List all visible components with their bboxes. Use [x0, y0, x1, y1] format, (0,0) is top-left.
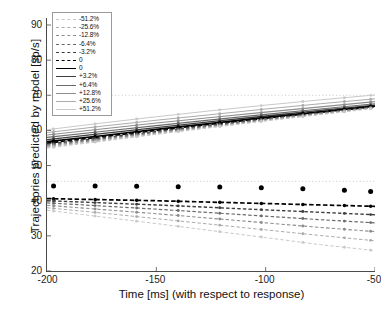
legend-item[interactable]: +12.8%: [55, 89, 109, 97]
legend-line-swatch: [55, 40, 77, 48]
data-point-marker: [343, 220, 346, 223]
data-point-marker: [369, 221, 372, 224]
data-point-marker: [135, 118, 138, 121]
data-point-marker: [52, 146, 55, 149]
data-point-marker: [369, 239, 372, 242]
y-tick-label: 60: [16, 125, 42, 135]
legend-item-label: 0: [77, 56, 83, 64]
data-point-marker: [218, 201, 222, 205]
data-point-marker-highlight: [368, 189, 373, 194]
data-point-marker: [135, 207, 138, 210]
data-point-marker: [177, 209, 180, 212]
legend-line-swatch: [55, 97, 77, 105]
legend-item-label: -6.4%: [77, 40, 95, 48]
data-point-marker: [260, 202, 264, 206]
data-point-marker: [260, 104, 263, 107]
data-point-marker: [177, 130, 180, 133]
data-point-marker: [369, 230, 372, 233]
legend-item[interactable]: -6.4%: [55, 40, 109, 48]
data-point-marker: [260, 221, 263, 224]
data-point-marker: [260, 208, 263, 211]
data-point-marker: [135, 211, 138, 214]
legend-item[interactable]: +25.6%: [55, 97, 109, 105]
legend-item-label: +12.8%: [77, 89, 101, 97]
data-point-marker-highlight: [342, 188, 347, 193]
data-point-marker: [301, 115, 304, 118]
data-point-marker: [369, 213, 372, 216]
data-point-marker: [343, 228, 346, 231]
data-point-marker-highlight: [134, 184, 139, 189]
data-point-marker-highlight: [300, 186, 305, 191]
legend-item[interactable]: -3.2%: [55, 48, 109, 56]
data-point-marker: [177, 219, 180, 222]
data-point-marker: [260, 108, 263, 111]
data-point-marker: [301, 203, 305, 207]
legend-line-swatch: [55, 64, 77, 72]
chart-legend: -51.2%-25.6%-12.8%-6.4%-3.2%00+3.2%+6.4%…: [52, 12, 112, 116]
legend-item-label: -51.2%: [77, 15, 99, 23]
data-point-marker: [343, 100, 346, 103]
legend-line-swatch: [55, 56, 77, 64]
legend-item-label: +6.4%: [77, 81, 97, 89]
data-point-marker: [52, 210, 55, 213]
legend-item[interactable]: +6.4%: [55, 81, 109, 89]
data-point-marker: [52, 207, 55, 210]
data-point-marker: [369, 107, 372, 110]
data-point-marker: [94, 141, 97, 144]
legend-item-label: +51.2%: [77, 105, 101, 113]
data-point-marker: [343, 246, 346, 249]
data-point-marker: [218, 218, 221, 221]
legend-item[interactable]: 0: [55, 64, 109, 72]
data-point-marker: [218, 230, 221, 233]
x-tick-label: -50: [367, 274, 381, 285]
legend-line-swatch: [55, 31, 77, 39]
legend-line-swatch: [55, 23, 77, 31]
data-point-marker: [301, 232, 304, 235]
legend-item[interactable]: +3.2%: [55, 72, 109, 80]
data-point-marker: [218, 108, 221, 111]
data-point-marker-highlight: [259, 185, 264, 190]
legend-item[interactable]: +51.2%: [55, 105, 109, 113]
data-point-marker: [343, 212, 346, 215]
data-point-marker: [94, 201, 97, 204]
data-point-marker: [260, 214, 263, 217]
data-point-marker: [135, 199, 139, 203]
legend-line-swatch: [55, 48, 77, 56]
legend-item-label: +3.2%: [77, 72, 97, 80]
data-point-marker: [343, 110, 346, 113]
data-point-marker: [260, 120, 263, 123]
data-point-marker: [343, 96, 346, 99]
data-point-marker: [52, 204, 55, 207]
x-axis-label: Time [ms] (with respect to response): [45, 288, 378, 300]
legend-line-swatch: [55, 81, 77, 89]
data-point-marker: [177, 204, 180, 207]
data-point-marker-highlight: [93, 183, 98, 188]
data-point-marker: [52, 130, 55, 133]
legend-item-label: -25.6%: [77, 23, 99, 31]
data-point-marker-highlight: [51, 183, 56, 188]
data-point-marker: [218, 112, 221, 115]
legend-item[interactable]: -51.2%: [55, 15, 109, 23]
data-point-marker: [135, 135, 138, 138]
legend-item[interactable]: -25.6%: [55, 23, 109, 31]
data-point-marker: [135, 203, 138, 206]
legend-item-label: +25.6%: [77, 97, 101, 105]
legend-line-swatch: [55, 89, 77, 97]
data-point-marker: [218, 206, 221, 209]
data-point-marker: [94, 126, 97, 129]
y-tick-label: 70: [16, 90, 42, 100]
legend-item[interactable]: 0: [55, 56, 109, 64]
data-point-marker: [94, 215, 97, 218]
data-point-marker: [177, 225, 180, 228]
data-point-marker: [369, 94, 372, 97]
data-point-marker: [176, 200, 180, 204]
data-point-marker: [369, 98, 372, 101]
data-point-marker: [301, 225, 304, 228]
data-point-marker: [135, 121, 138, 124]
data-point-marker: [135, 220, 138, 223]
legend-item-label: -12.8%: [77, 31, 99, 39]
data-point-marker: [93, 198, 97, 202]
legend-item[interactable]: -12.8%: [55, 31, 109, 39]
y-tick-label: 40: [16, 196, 42, 206]
